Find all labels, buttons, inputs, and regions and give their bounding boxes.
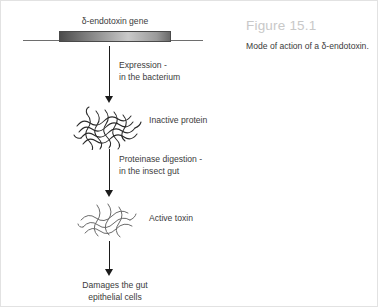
figure-caption-text: Mode of action of a δ-endotoxin. — [246, 41, 374, 53]
arrow-expression-shaft — [109, 46, 110, 98]
figure-caption-block: Figure 15.1 Mode of action of a δ-endoto… — [246, 18, 374, 53]
active-toxin-icon — [77, 199, 137, 241]
outcome-label: Damages the gut epithelial cells — [1, 279, 229, 304]
step-label-digestion-line1: Proteinase digestion - — [119, 153, 202, 165]
gene-segment-box — [59, 31, 171, 42]
arrow-outcome-head — [105, 269, 113, 276]
figure-number: Figure 15.1 — [246, 18, 374, 34]
inactive-protein-icon — [71, 104, 143, 150]
outcome-label-line1: Damages the gut — [1, 279, 229, 291]
figure-container: Figure 15.1 Mode of action of a δ-endoto… — [0, 0, 378, 307]
arrow-expression-head — [105, 96, 113, 103]
arrow-outcome-shaft — [109, 241, 110, 271]
arrow-digestion-head — [105, 190, 113, 197]
step-label-expression: Expression - in the bacterium — [119, 59, 180, 84]
node-label-inactive-protein: Inactive protein — [149, 115, 207, 125]
step-label-digestion-line2: in the insect gut — [119, 165, 202, 177]
step-label-expression-line1: Expression - — [119, 59, 180, 71]
outcome-label-line2: epithelial cells — [1, 291, 229, 303]
node-label-active-toxin: Active toxin — [149, 213, 193, 223]
gene-label: δ-endotoxin gene — [1, 16, 229, 26]
step-label-expression-line2: in the bacterium — [119, 71, 180, 83]
step-label-digestion: Proteinase digestion - in the insect gut — [119, 153, 202, 178]
arrow-digestion-shaft — [109, 149, 110, 192]
